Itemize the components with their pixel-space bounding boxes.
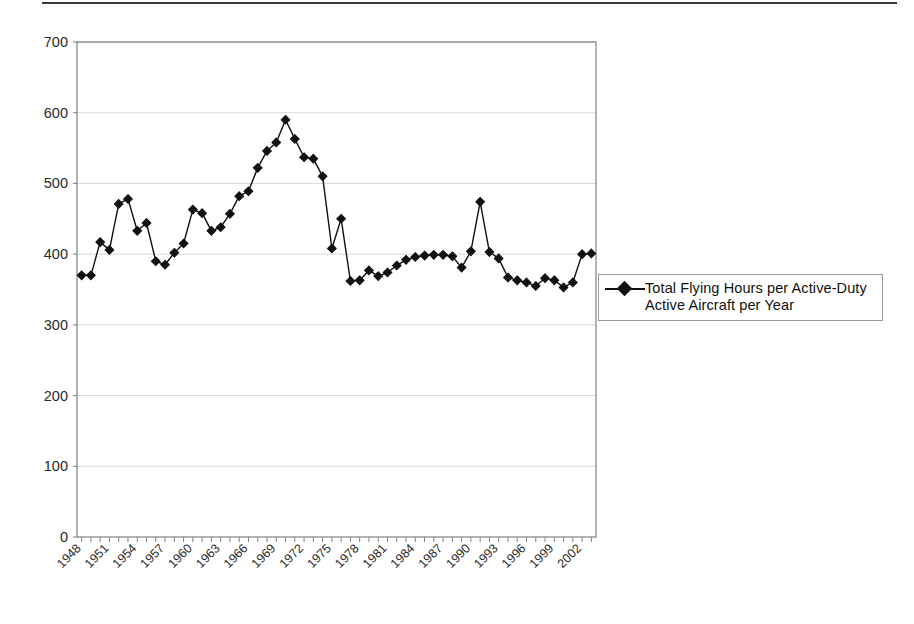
series-data-markers [77, 115, 595, 291]
y-tick-label: 600 [44, 105, 68, 121]
data-point-marker [420, 251, 429, 260]
data-point-marker [244, 187, 253, 196]
y-tick-label: 700 [44, 34, 68, 50]
data-point-marker [87, 271, 96, 280]
data-point-marker [198, 209, 207, 218]
x-tick-label: 1996 [499, 541, 529, 571]
x-tick-label: 1960 [165, 541, 195, 571]
data-point-marker [587, 249, 596, 258]
data-point-marker [494, 254, 503, 263]
data-point-marker [226, 210, 235, 219]
y-tick-label: 0 [60, 529, 68, 545]
data-point-marker [318, 172, 327, 181]
data-point-marker [309, 154, 318, 163]
x-tick-label: 2002 [555, 541, 585, 571]
x-axis-ticks [82, 537, 592, 542]
chart-page: 0100200300400500600700 19481951195419571… [0, 0, 914, 624]
data-point-marker [430, 251, 439, 260]
data-point-marker [235, 192, 244, 201]
data-point-marker [337, 214, 346, 223]
x-tick-label: 1981 [360, 541, 390, 571]
x-tick-label: 1993 [471, 541, 501, 571]
x-axis-tick-labels: 1948195119541957196019631966196919721975… [54, 541, 584, 571]
data-point-marker [300, 153, 309, 162]
y-tick-label: 400 [44, 246, 68, 262]
data-point-marker [114, 200, 123, 209]
data-point-marker [522, 278, 531, 287]
legend-entry-label: Total Flying Hours per Active-Duty Activ… [645, 280, 867, 314]
x-tick-label: 1948 [54, 541, 84, 571]
x-tick-label: 1990 [443, 541, 473, 571]
plot-frame [77, 42, 596, 537]
x-tick-label: 1966 [221, 541, 251, 571]
data-point-marker [439, 251, 448, 260]
data-point-marker [504, 273, 513, 282]
x-tick-label: 1957 [138, 541, 168, 571]
x-tick-label: 1951 [82, 541, 112, 571]
diamond-marker-icon [605, 281, 645, 297]
data-point-marker [207, 227, 216, 236]
legend-entry: Total Flying Hours per Active-Duty Activ… [605, 280, 876, 314]
y-tick-label: 200 [44, 388, 68, 404]
data-point-marker [124, 195, 133, 204]
data-point-marker [569, 278, 578, 287]
y-tick-label: 500 [44, 175, 68, 191]
x-tick-label: 1954 [110, 541, 140, 571]
data-point-marker [402, 256, 411, 265]
data-point-marker [216, 223, 225, 232]
data-point-marker [151, 257, 160, 266]
x-tick-label: 1999 [527, 541, 557, 571]
x-tick-label: 1987 [416, 541, 446, 571]
data-point-marker [77, 271, 86, 280]
data-point-marker [290, 135, 299, 144]
y-gridlines [77, 42, 596, 466]
data-point-marker [253, 164, 262, 173]
data-point-marker [476, 198, 485, 207]
x-tick-label: 1978 [332, 541, 362, 571]
x-tick-label: 1969 [249, 541, 279, 571]
data-point-marker [513, 276, 522, 285]
data-point-marker [346, 277, 355, 286]
data-point-marker [328, 244, 337, 253]
data-point-marker [281, 115, 290, 124]
x-tick-label: 1984 [388, 541, 418, 571]
data-point-marker [485, 248, 494, 257]
data-point-marker [374, 272, 383, 281]
x-tick-label: 1972 [277, 541, 307, 571]
x-tick-label: 1975 [304, 541, 334, 571]
x-tick-label: 1963 [193, 541, 223, 571]
y-tick-label: 300 [44, 317, 68, 333]
legend-diamond-glyph [617, 281, 633, 297]
y-axis-tick-labels: 0100200300400500600700 [44, 34, 68, 545]
chart-legend: Total Flying Hours per Active-Duty Activ… [598, 274, 883, 321]
y-tick-label: 100 [44, 458, 68, 474]
data-point-marker [189, 205, 198, 214]
data-point-marker [578, 250, 587, 259]
